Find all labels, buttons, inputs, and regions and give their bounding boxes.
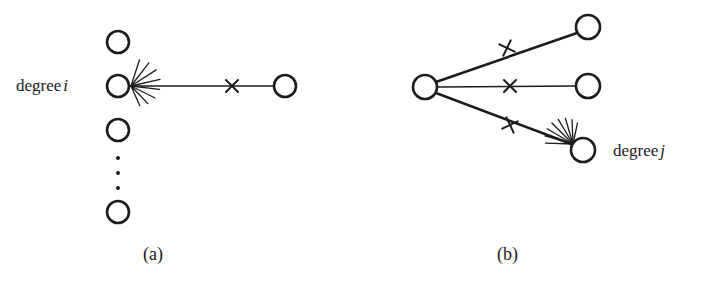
panel-a-node-column — [107, 31, 129, 223]
degree-i-label: degreei — [16, 77, 68, 94]
degree-j-label: degreej — [613, 142, 665, 159]
panel-a-node-3 — [107, 201, 129, 223]
panel-a-ellipsis-dot-0 — [116, 156, 120, 160]
panel-a-vertical-ellipsis — [116, 156, 120, 190]
panel-a-ellipsis-dot-1 — [116, 171, 120, 175]
panel-b-target-nodes — [571, 15, 600, 162]
panel-b-target-node-2 — [571, 138, 595, 162]
degree-i-prefix: degree — [16, 76, 61, 95]
panel-b-target-node-1 — [576, 74, 600, 98]
figure-canvas: degreei degreej (a) (b) — [0, 0, 707, 286]
panel-b-edge-2 — [436, 93, 574, 145]
panel-a-node-0 — [107, 31, 129, 53]
panel-b-graph — [413, 15, 600, 162]
degree-i-variable: i — [61, 76, 68, 95]
panel-a-caption: (a) — [143, 245, 163, 263]
panel-a-target-node — [274, 75, 296, 97]
figure-svg — [0, 0, 707, 286]
panel-b-caption: (b) — [497, 245, 518, 263]
panel-b-hub-node — [413, 75, 437, 99]
panel-b-degree-stub-fan — [545, 118, 577, 144]
panel-b-edge-1 — [437, 86, 576, 87]
panel-a-hub-node — [107, 75, 129, 97]
degree-j-variable: j — [658, 141, 665, 160]
panel-b-stub-fan-lines — [545, 118, 577, 144]
panel-a-graph — [107, 31, 296, 223]
panel-b-cross-0 — [499, 40, 514, 55]
panel-b-edge-0 — [436, 33, 577, 82]
panel-a-stub-fan-lines — [131, 60, 160, 106]
panel-a-ellipsis-dot-2 — [116, 186, 120, 190]
panel-b-target-node-0 — [576, 15, 600, 39]
degree-j-prefix: degree — [613, 141, 658, 160]
panel-a-node-2 — [107, 119, 129, 141]
panel-a-degree-stub-fan — [131, 60, 160, 106]
